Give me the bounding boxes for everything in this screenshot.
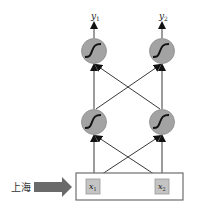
input-arrow-icon bbox=[34, 177, 72, 197]
input-node-x2: x2 bbox=[155, 179, 169, 194]
hidden-node-h1 bbox=[82, 110, 107, 135]
output-node-y1 bbox=[82, 39, 107, 64]
edges-hidden-to-output bbox=[94, 65, 162, 109]
output-node-y2 bbox=[150, 39, 175, 64]
input-node-x1: x1 bbox=[86, 179, 100, 194]
output-label-y2: y2 bbox=[158, 11, 168, 22]
sigmoid-node-circle bbox=[82, 39, 107, 64]
input-word: 上海 bbox=[11, 181, 31, 193]
sigmoid-node-circle bbox=[82, 110, 107, 135]
sigmoid-node-circle bbox=[150, 39, 175, 64]
output-label-y1: y1 bbox=[90, 11, 100, 22]
edges-output-up bbox=[94, 23, 162, 38]
sigmoid-node-circle bbox=[150, 110, 175, 135]
hidden-node-h2 bbox=[150, 110, 175, 135]
edges-input-to-hidden bbox=[94, 136, 162, 178]
neural-network-diagram: y1 y2 x1 x2 上海 bbox=[0, 0, 198, 213]
